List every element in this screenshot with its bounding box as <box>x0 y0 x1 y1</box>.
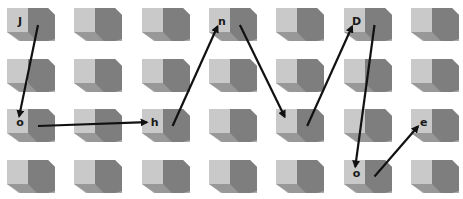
cube-icon <box>74 56 126 96</box>
cube-icon <box>209 106 261 146</box>
cube-icon <box>411 56 463 96</box>
cube-r3-c3 <box>209 157 261 197</box>
cube-icon <box>142 5 194 45</box>
cube-icon <box>7 56 59 96</box>
cube-icon <box>7 157 59 197</box>
cube-r2-c1 <box>74 106 126 146</box>
cube-r0-c5: D <box>344 5 396 45</box>
cube-icon <box>74 106 126 146</box>
cube-icon <box>276 56 328 96</box>
cube-r0-c4 <box>276 5 328 45</box>
cube-letter: o <box>12 116 28 129</box>
cube-icon <box>344 106 396 146</box>
cube-r2-c0: o <box>7 106 59 146</box>
cube-r2-c4 <box>276 106 328 146</box>
cube-r2-c5 <box>344 106 396 146</box>
cube-icon <box>276 5 328 45</box>
cube-r3-c1 <box>74 157 126 197</box>
cube-letter: h <box>147 116 163 129</box>
cube-grid-diagram: JnDoheo <box>0 0 463 199</box>
cube-r1-c0 <box>7 56 59 96</box>
cube-r3-c6 <box>411 157 463 197</box>
cube-r3-c5: o <box>344 157 396 197</box>
cube-r0-c3: n <box>209 5 261 45</box>
cube-r1-c5 <box>344 56 396 96</box>
cube-icon <box>276 157 328 197</box>
cube-r3-c4 <box>276 157 328 197</box>
cube-r1-c4 <box>276 56 328 96</box>
cube-r2-c2: h <box>142 106 194 146</box>
cube-r0-c2 <box>142 5 194 45</box>
cube-r0-c0: J <box>7 5 59 45</box>
cube-r2-c3 <box>209 106 261 146</box>
cube-r1-c2 <box>142 56 194 96</box>
cube-letter: o <box>349 167 365 180</box>
cube-r1-c1 <box>74 56 126 96</box>
cube-icon <box>411 157 463 197</box>
cube-letter: D <box>349 15 365 28</box>
cube-r1-c3 <box>209 56 261 96</box>
cube-icon <box>142 56 194 96</box>
cube-letter: n <box>214 15 230 28</box>
cube-letter: J <box>12 15 28 28</box>
cube-icon <box>344 56 396 96</box>
cube-icon <box>276 106 328 146</box>
cube-icon <box>74 5 126 45</box>
cube-icon <box>411 5 463 45</box>
cube-r0-c6 <box>411 5 463 45</box>
cube-r0-c1 <box>74 5 126 45</box>
cube-icon <box>209 56 261 96</box>
cube-letter: e <box>416 116 432 129</box>
cube-r2-c6: e <box>411 106 463 146</box>
cube-r3-c2 <box>142 157 194 197</box>
cube-r3-c0 <box>7 157 59 197</box>
cube-icon <box>142 157 194 197</box>
cube-r1-c6 <box>411 56 463 96</box>
cube-icon <box>209 157 261 197</box>
cube-icon <box>74 157 126 197</box>
